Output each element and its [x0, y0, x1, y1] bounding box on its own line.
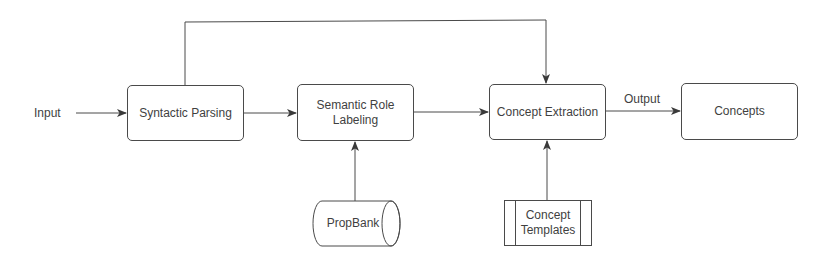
resource-label: Concept Templates — [518, 208, 578, 238]
node-concepts[interactable]: Concepts — [681, 83, 798, 140]
edge-syntactic-to-concept-extraction — [185, 20, 546, 85]
node-semantic-role-labeling[interactable]: Semantic Role Labeling — [297, 84, 414, 141]
resource-concept-templates[interactable]: Concept Templates — [515, 200, 581, 246]
node-syntactic-parsing[interactable]: Syntactic Parsing — [127, 85, 244, 141]
node-label: Concept Extraction — [497, 105, 598, 120]
edge-label-output: Output — [624, 92, 660, 106]
resource-label: PropBank — [327, 216, 380, 231]
input-label: Input — [34, 106, 61, 120]
node-concept-extraction[interactable]: Concept Extraction — [489, 84, 606, 140]
node-label: Concepts — [714, 104, 765, 119]
node-label: Semantic Role Labeling — [311, 98, 401, 128]
resource-propbank[interactable]: PropBank — [313, 201, 393, 246]
node-label: Syntactic Parsing — [139, 106, 232, 121]
